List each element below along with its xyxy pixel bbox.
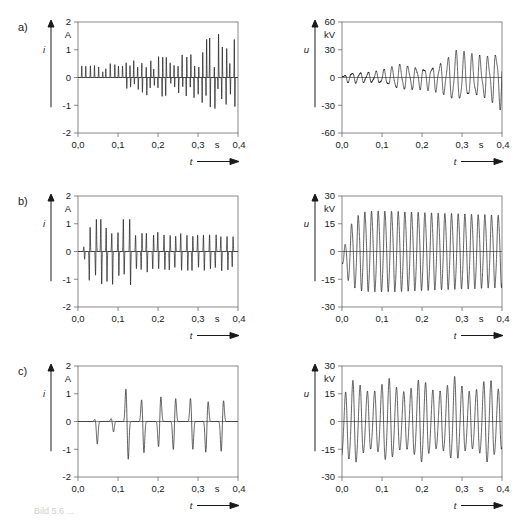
x-axis-label: t: [454, 330, 457, 341]
x-tick-label: 0,1: [111, 313, 124, 324]
x-tick-label: 0,2: [415, 313, 428, 324]
y-tick-label: 60: [324, 16, 335, 27]
figure-row-c: c) -2-10120,00,10,20,3s0,4Ait -30-150153…: [0, 344, 528, 518]
signal-trace: [78, 389, 238, 459]
y-tick-label: 30: [324, 190, 335, 201]
y-tick-label: -30: [321, 301, 335, 312]
x-axis-arrowhead: [494, 503, 503, 509]
x-axis-label: t: [454, 500, 457, 511]
figure-oscillogram-grid: a) -2-10120,00,10,20,3s0,4Ait -60-300306…: [0, 0, 528, 522]
x-tick-label: 0,3: [191, 313, 204, 324]
x-tick-label: 0,0: [335, 313, 348, 324]
y-tick-label: -30: [321, 471, 335, 482]
y-axis-unit: kV: [324, 29, 336, 40]
x-tick-label: 0,3: [191, 139, 204, 150]
x-tick-label: 0,3: [455, 139, 468, 150]
x-axis-unit: s: [215, 139, 220, 150]
y-tick-label: -2: [63, 471, 71, 482]
y-tick-label: -2: [63, 301, 71, 312]
chart-a-left: -2-10120,00,10,20,3s0,4Ait: [0, 0, 264, 174]
x-tick-label: 0,0: [335, 483, 348, 494]
chart-b-left: -2-10120,00,10,20,3s0,4Ait: [0, 174, 264, 348]
x-tick-label: 0,1: [375, 483, 388, 494]
y-tick-label: 1: [66, 388, 71, 399]
chart-c-right-svg: -30-15015300,00,10,20,3s0,4kVut: [264, 344, 528, 518]
y-axis-arrowhead: [48, 364, 54, 371]
y-tick-label: 2: [66, 360, 71, 371]
chart-b-right: -30-15015300,00,10,20,3s0,4kVut: [264, 174, 528, 348]
x-tick-label: 0,1: [111, 483, 124, 494]
chart-a-right-svg: -60-30030600,00,10,20,3s0,4kVut: [264, 0, 528, 174]
x-axis-unit: s: [479, 139, 484, 150]
x-tick-label: 0,2: [151, 313, 164, 324]
y-axis-arrowhead: [312, 364, 318, 371]
y-tick-label: 0: [66, 416, 71, 427]
x-tick-label: 0,2: [151, 483, 164, 494]
y-axis-unit: A: [65, 373, 72, 384]
x-axis-unit: s: [215, 483, 220, 494]
x-tick-label: 0,4: [496, 483, 509, 494]
y-axis-label: u: [304, 44, 310, 55]
y-tick-label: -2: [63, 127, 71, 138]
x-tick-label: 0,0: [335, 139, 348, 150]
x-tick-label: 0,4: [496, 139, 509, 150]
x-tick-label: 0,0: [71, 313, 84, 324]
x-tick-label: 0,1: [375, 313, 388, 324]
y-axis-unit: A: [65, 203, 72, 214]
y-tick-label: 2: [66, 16, 71, 27]
chart-b-right-svg: -30-15015300,00,10,20,3s0,4kVut: [264, 174, 528, 348]
x-tick-label: 0,3: [455, 313, 468, 324]
y-tick-label: -15: [321, 274, 335, 285]
chart-c-left: -2-10120,00,10,20,3s0,4Ait: [0, 344, 264, 518]
y-axis-arrowhead: [48, 20, 54, 27]
y-tick-label: 0: [330, 72, 335, 83]
y-tick-label: -60: [321, 127, 335, 138]
signal-trace: [78, 219, 238, 285]
x-tick-label: 0,4: [232, 313, 245, 324]
x-axis-label: t: [190, 330, 193, 341]
y-axis-label: u: [304, 388, 310, 399]
x-axis-arrowhead: [230, 333, 239, 339]
chart-b-left-svg: -2-10120,00,10,20,3s0,4Ait: [0, 174, 264, 348]
y-tick-label: 1: [66, 218, 71, 229]
x-axis-label: t: [454, 156, 457, 167]
y-axis-arrowhead: [312, 194, 318, 201]
y-tick-label: -15: [321, 444, 335, 455]
x-tick-label: 0,2: [151, 139, 164, 150]
figure-caption-fragment: Bild 5.6 ...: [34, 506, 334, 518]
x-tick-label: 0,3: [191, 483, 204, 494]
x-axis-arrowhead: [230, 159, 239, 165]
y-axis-label: u: [304, 218, 310, 229]
x-tick-label: 0,0: [71, 483, 84, 494]
y-tick-label: 15: [324, 388, 335, 399]
y-tick-label: -30: [321, 100, 335, 111]
signal-trace: [342, 50, 502, 110]
chart-a-left-svg: -2-10120,00,10,20,3s0,4Ait: [0, 0, 264, 174]
y-tick-label: 30: [324, 44, 335, 55]
chart-c-right: -30-15015300,00,10,20,3s0,4kVut: [264, 344, 528, 518]
x-tick-label: 0,0: [71, 139, 84, 150]
chart-a-right: -60-30030600,00,10,20,3s0,4kVut: [264, 0, 528, 174]
signal-trace: [342, 376, 502, 462]
y-axis-arrowhead: [312, 20, 318, 27]
x-axis-label: t: [190, 156, 193, 167]
y-axis-label: i: [43, 218, 46, 229]
y-axis-label: i: [43, 388, 46, 399]
y-tick-label: -1: [63, 444, 71, 455]
y-tick-label: 30: [324, 360, 335, 371]
y-tick-label: 0: [330, 416, 335, 427]
y-tick-label: 0: [66, 72, 71, 83]
signal-trace: [78, 34, 238, 108]
x-axis-unit: s: [215, 313, 220, 324]
x-axis-arrowhead: [494, 159, 503, 165]
figure-row-a: a) -2-10120,00,10,20,3s0,4Ait -60-300306…: [0, 0, 528, 174]
y-axis-arrowhead: [48, 194, 54, 201]
y-tick-label: 2: [66, 190, 71, 201]
chart-c-left-svg: -2-10120,00,10,20,3s0,4Ait: [0, 344, 264, 518]
y-tick-label: 0: [330, 246, 335, 257]
x-tick-label: 0,4: [232, 483, 245, 494]
y-tick-label: -1: [63, 274, 71, 285]
x-tick-label: 0,3: [455, 483, 468, 494]
x-axis-arrowhead: [494, 333, 503, 339]
y-tick-label: 1: [66, 44, 71, 55]
